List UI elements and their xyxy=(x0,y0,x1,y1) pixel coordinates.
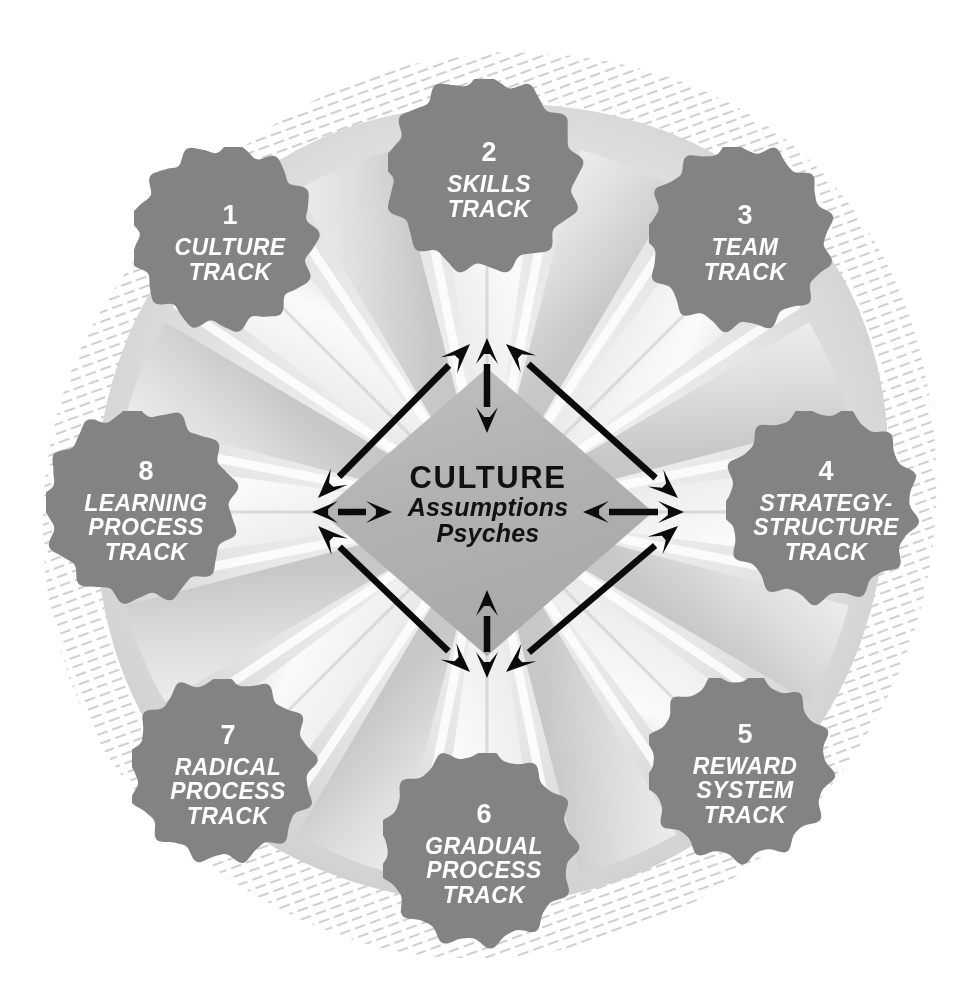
track-node-2[interactable]: 2SKILLSTRACK xyxy=(388,79,590,281)
track-node-label: CULTURETRACK xyxy=(175,235,286,284)
track-node-number: 8 xyxy=(84,458,207,485)
track-node-label: LEARNINGPROCESSTRACK xyxy=(84,491,207,565)
track-node-text-8: 8LEARNINGPROCESSTRACK xyxy=(78,458,213,565)
track-node-label-line: TRACK xyxy=(753,540,898,565)
track-node-label: REWARDSYSTEMTRACK xyxy=(693,754,798,828)
track-node-text-3: 3TEAMTRACK xyxy=(698,202,793,284)
track-node-label-line: STRATEGY- xyxy=(753,491,898,516)
track-node-label-line: SYSTEM xyxy=(693,778,798,803)
track-node-label-line: TRACK xyxy=(175,260,286,285)
track-node-label-line: CULTURE xyxy=(175,235,286,260)
track-node-text-7: 7RADICALPROCESSTRACK xyxy=(164,722,291,829)
track-node-7[interactable]: 7RADICALPROCESSTRACK xyxy=(132,679,324,871)
track-node-8[interactable]: 8LEARNINGPROCESSTRACK xyxy=(46,411,246,611)
track-node-5[interactable]: 5REWARDSYSTEMTRACK xyxy=(649,678,841,870)
track-node-label-line: LEARNING xyxy=(84,491,207,516)
track-node-text-1: 1CULTURETRACK xyxy=(169,202,292,284)
track-node-number: 1 xyxy=(175,202,286,229)
track-node-4[interactable]: 4STRATEGY-STRUCTURETRACK xyxy=(726,411,926,611)
center-line-psyches: Psyches xyxy=(368,520,608,546)
track-node-label-line: SKILLS xyxy=(447,172,531,197)
track-node-label-line: TRACK xyxy=(425,883,543,908)
track-node-number: 5 xyxy=(693,721,798,748)
track-node-label-line: TRACK xyxy=(704,260,787,285)
track-node-label: TEAMTRACK xyxy=(704,235,787,284)
track-node-text-5: 5REWARDSYSTEMTRACK xyxy=(687,721,804,828)
track-node-1[interactable]: 1CULTURETRACK xyxy=(134,147,326,339)
track-node-number: 3 xyxy=(704,202,787,229)
track-node-label: STRATEGY-STRUCTURETRACK xyxy=(753,491,898,565)
track-node-label-line: PROCESS xyxy=(425,858,543,883)
track-node-text-4: 4STRATEGY-STRUCTURETRACK xyxy=(747,458,904,565)
track-node-label: RADICALPROCESSTRACK xyxy=(170,755,285,829)
center-title: CULTURE xyxy=(368,462,608,494)
track-node-label-line: TRACK xyxy=(170,804,285,829)
track-node-label-line: GRADUAL xyxy=(425,834,543,859)
track-node-6[interactable]: 6GRADUALPROCESSTRACK xyxy=(383,753,585,955)
track-node-label-line: REWARD xyxy=(693,754,798,779)
track-node-text-6: 6GRADUALPROCESSTRACK xyxy=(419,801,549,908)
track-node-text-2: 2SKILLSTRACK xyxy=(441,139,537,221)
track-node-number: 4 xyxy=(753,458,898,485)
track-node-label-line: PROCESS xyxy=(170,779,285,804)
diagram-canvas: 1CULTURETRACK2SKILLSTRACK3TEAMTRACK4STRA… xyxy=(0,0,973,1007)
track-node-number: 6 xyxy=(425,801,543,828)
track-node-label-line: STRUCTURE xyxy=(753,515,898,540)
track-node-label-line: TEAM xyxy=(704,235,787,260)
track-node-3[interactable]: 3TEAMTRACK xyxy=(649,147,841,339)
track-node-label-line: TRACK xyxy=(447,197,531,222)
track-node-label: SKILLSTRACK xyxy=(447,172,531,221)
center-culture-label: CULTURE Assumptions Psyches xyxy=(368,462,608,546)
track-node-label-line: PROCESS xyxy=(84,515,207,540)
center-line-assumptions: Assumptions xyxy=(368,494,608,520)
track-node-label-line: RADICAL xyxy=(170,755,285,780)
track-node-label-line: TRACK xyxy=(693,803,798,828)
track-node-number: 7 xyxy=(170,722,285,749)
track-node-label-line: TRACK xyxy=(84,540,207,565)
track-node-label: GRADUALPROCESSTRACK xyxy=(425,834,543,908)
track-node-number: 2 xyxy=(447,139,531,166)
